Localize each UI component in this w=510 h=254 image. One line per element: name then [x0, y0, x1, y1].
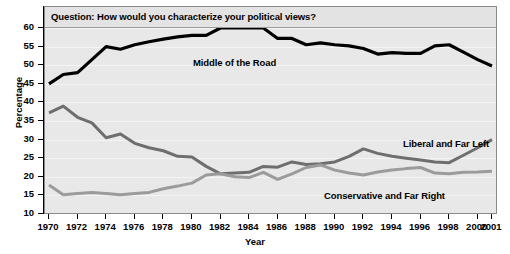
x-tick-mark — [248, 214, 249, 219]
x-tick-mark — [48, 214, 49, 219]
x-tick-mark — [420, 214, 421, 219]
y-tick-mark — [38, 46, 43, 47]
x-tick-mark — [277, 214, 278, 219]
x-tick-mark — [334, 214, 335, 219]
x-tick-label: 2001 — [471, 221, 510, 232]
series-label-liberal-and-far-left: Liberal and Far Left — [403, 138, 489, 149]
y-tick-mark — [38, 64, 43, 65]
x-tick-mark — [491, 214, 492, 219]
x-tick-mark — [220, 214, 221, 219]
y-tick-mark — [38, 194, 43, 195]
y-tick-mark — [38, 27, 43, 28]
series-line — [49, 28, 492, 84]
y-tick-label: 30 — [8, 134, 34, 144]
y-tick-label: 15 — [8, 189, 34, 199]
y-tick-label: 20 — [8, 171, 34, 181]
y-tick-mark — [38, 213, 43, 214]
y-tick-mark — [38, 101, 43, 102]
x-tick-mark — [477, 214, 478, 219]
x-tick-mark — [134, 214, 135, 219]
y-tick-label: 55 — [8, 41, 34, 51]
political-views-line-chart: Percentage 6055504540353025201510 197019… — [0, 0, 510, 254]
y-tick-mark — [38, 83, 43, 84]
question-banner: Question: How would you characterize you… — [45, 7, 496, 28]
x-tick-mark — [362, 214, 363, 219]
y-tick-label: 25 — [8, 152, 34, 162]
y-tick-label: 40 — [8, 96, 34, 106]
y-tick-mark — [38, 176, 43, 177]
y-tick-label: 60 — [8, 22, 34, 32]
y-tick-mark — [38, 139, 43, 140]
x-tick-mark — [305, 214, 306, 219]
x-tick-mark — [105, 214, 106, 219]
y-tick-mark — [38, 157, 43, 158]
y-tick-label: 45 — [8, 78, 34, 88]
x-tick-mark — [77, 214, 78, 219]
x-tick-mark — [391, 214, 392, 219]
x-axis-title: Year — [0, 236, 510, 247]
y-tick-label: 50 — [8, 59, 34, 69]
chart-title: Question: How would you characterize you… — [51, 11, 316, 22]
series-label-middle-of-the-road: Middle of the Road — [193, 57, 276, 68]
x-tick-mark — [191, 214, 192, 219]
x-tick-mark — [162, 214, 163, 219]
series-lines — [45, 7, 497, 214]
series-label-conservative-and-far-right: Conservative and Far Right — [324, 190, 445, 201]
y-tick-label: 10 — [8, 208, 34, 218]
x-tick-mark — [448, 214, 449, 219]
plot-area: Question: How would you characterize you… — [44, 6, 497, 214]
y-tick-label: 35 — [8, 115, 34, 125]
y-tick-mark — [38, 120, 43, 121]
